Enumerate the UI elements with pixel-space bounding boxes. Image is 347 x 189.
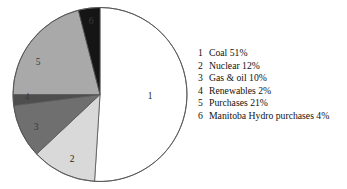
legend: 1Coal 51%2Nuclear 12%3Gas & oil 10%4Rene… (198, 47, 347, 123)
pie-chart-plot: 123456 (0, 0, 200, 189)
pie-slice-label: 5 (36, 57, 41, 67)
legend-item-number: 3 (198, 72, 209, 85)
pie-slice-label: 1 (148, 91, 153, 101)
legend-item: 5Purchases 21% (198, 97, 347, 110)
pie-slice (95, 8, 187, 182)
pie-slice-label: 2 (70, 154, 75, 164)
pie-slice-group (13, 7, 187, 181)
legend-item: 4Renewables 2% (198, 85, 347, 98)
legend-item-number: 1 (198, 47, 209, 60)
legend-item-label: Coal 51% (209, 47, 347, 60)
legend-item-label: Purchases 21% (209, 97, 347, 110)
legend-item-label: Manitoba Hydro purchases 4% (209, 110, 347, 123)
pie-svg: 123456 (0, 0, 200, 189)
pie-slice-label: 3 (34, 122, 39, 132)
legend-item-number: 5 (198, 97, 209, 110)
legend-item-label: Renewables 2% (209, 85, 347, 98)
legend-item: 3Gas & oil 10% (198, 72, 347, 85)
legend-item-number: 6 (198, 110, 209, 123)
legend-item: 6Manitoba Hydro purchases 4% (198, 110, 347, 123)
legend-item-number: 2 (198, 60, 209, 73)
pie-slice-label: 4 (25, 92, 30, 102)
legend-item-number: 4 (198, 85, 209, 98)
legend-item: 1Coal 51% (198, 47, 347, 60)
pie-slice-label: 6 (89, 16, 94, 26)
legend-item-label: Gas & oil 10% (209, 72, 347, 85)
pie-chart-figure: 123456 1Coal 51%2Nuclear 12%3Gas & oil 1… (0, 0, 347, 189)
legend-item-label: Nuclear 12% (209, 60, 347, 73)
legend-item: 2Nuclear 12% (198, 60, 347, 73)
